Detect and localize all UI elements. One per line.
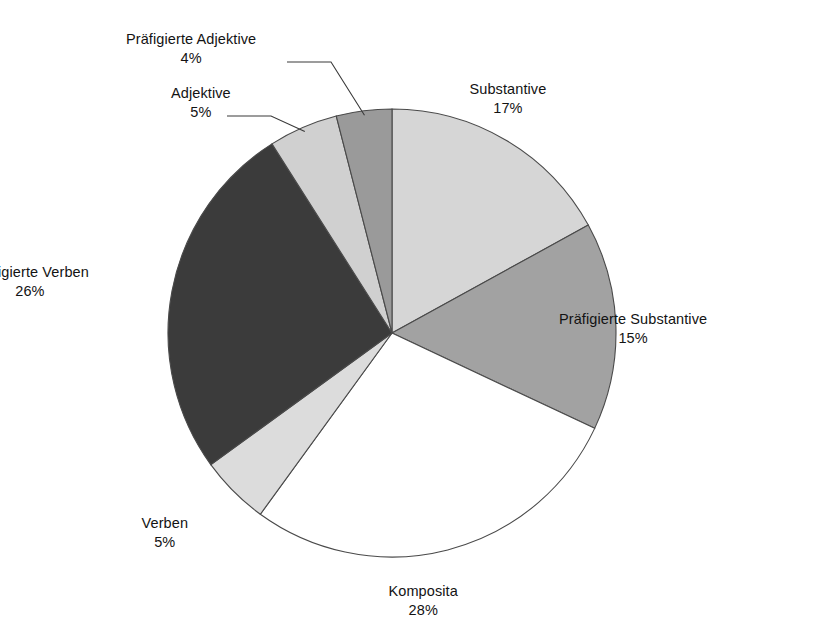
pie-slice-label: Präfigierte Adjektive4% (126, 30, 256, 68)
pie-slice-label-value: 28% (389, 601, 458, 620)
pie-slice-label-name: Verben (142, 514, 189, 533)
pie-slice-label: Präfigierte Verben26% (0, 263, 89, 301)
pie-slice-label-value: 5% (142, 533, 189, 552)
pie-slice-label-name: Komposita (389, 582, 458, 601)
pie-slice-label-value: 15% (559, 329, 707, 348)
pie-slice-label-value: 5% (171, 103, 231, 122)
pie-slice-label-name: Präfigierte Verben (0, 263, 89, 282)
pie-slice-label: Substantive17% (470, 80, 547, 118)
pie-slice-label-value: 4% (126, 49, 256, 68)
pie-slice-label-name: Präfigierte Substantive (559, 310, 707, 329)
pie-slice-label-name: Adjektive (171, 84, 231, 103)
pie-slice-label: Adjektive5% (171, 84, 231, 122)
pie-slice-label-value: 26% (0, 282, 89, 301)
pie-slice-label-name: Substantive (470, 80, 547, 99)
pie-slice-label-value: 17% (470, 99, 547, 118)
pie-label-leader-line (287, 62, 364, 115)
pie-slice-label: Verben5% (142, 514, 189, 552)
pie-chart: Substantive17%Präfigierte Substantive15%… (0, 0, 815, 628)
pie-slice-label: Präfigierte Substantive15% (559, 310, 707, 348)
pie-slice-label: Komposita28% (389, 582, 458, 620)
pie-slice-label-name: Präfigierte Adjektive (126, 30, 256, 49)
pie-slices-group (168, 109, 616, 557)
pie-label-leader-line (227, 116, 305, 132)
